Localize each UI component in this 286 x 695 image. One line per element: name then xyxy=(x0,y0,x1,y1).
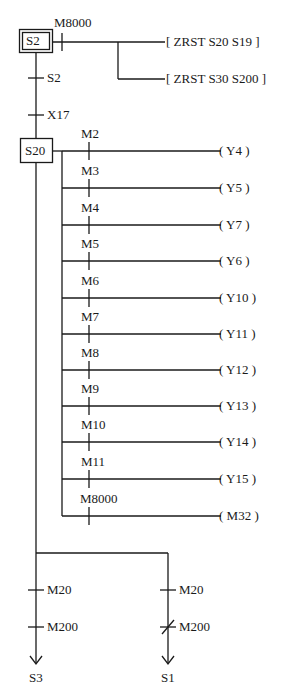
transition-label-s2: S2 xyxy=(47,71,61,85)
branch-right-m20-label: M20 xyxy=(179,583,204,597)
rung-contact-label: M9 xyxy=(81,382,99,396)
rung-contact-label: M7 xyxy=(81,310,99,324)
rung-contact-label: M4 xyxy=(81,201,99,215)
rung-coil-label: ( Y4 ) xyxy=(219,144,250,158)
rung-contact-label: M2 xyxy=(81,127,99,141)
rung-coil-label: ( Y11 ) xyxy=(219,327,256,341)
init-output-1: [ ZRST S20 S19 ] xyxy=(166,35,260,49)
rung-contact-label: M6 xyxy=(81,274,99,288)
rung-coil-label: ( Y14 ) xyxy=(219,435,256,449)
initial-step-label: S2 xyxy=(26,34,40,48)
rung-coil-label: ( Y10 ) xyxy=(219,291,256,305)
rung-contact-label: M3 xyxy=(81,164,99,178)
branch-left-m20-label: M20 xyxy=(47,583,72,597)
rung-contact-label: M11 xyxy=(81,455,105,469)
rung-coil-label: ( Y15 ) xyxy=(219,472,256,486)
rung-contact-label: M10 xyxy=(81,418,106,432)
branch-left-m200-label: M200 xyxy=(47,620,78,634)
rung-coil-label: ( Y7 ) xyxy=(219,218,250,232)
rung-coil-label: ( Y13 ) xyxy=(219,399,256,413)
branch-right-m200-label: M200 xyxy=(179,620,210,634)
transition-label-x17: X17 xyxy=(47,108,69,122)
rung-coil-label: ( Y5 ) xyxy=(219,181,250,195)
rung-coil-label: ( Y12 ) xyxy=(219,363,256,377)
rung-coil-label: ( Y6 ) xyxy=(219,254,250,268)
init-contact-label: M8000 xyxy=(54,16,92,30)
step-s20-label: S20 xyxy=(25,144,45,158)
rung-contact-label: M8 xyxy=(81,346,99,360)
rung-coil-label: ( M32 ) xyxy=(219,509,259,523)
target-s3-label: S3 xyxy=(29,671,43,685)
sfc-diagram xyxy=(0,0,286,695)
init-output-2: [ ZRST S30 S200 ] xyxy=(166,72,266,86)
rung-contact-label: M8000 xyxy=(80,492,118,506)
rung-contact-label: M5 xyxy=(81,237,99,251)
target-s1-label: S1 xyxy=(161,671,175,685)
